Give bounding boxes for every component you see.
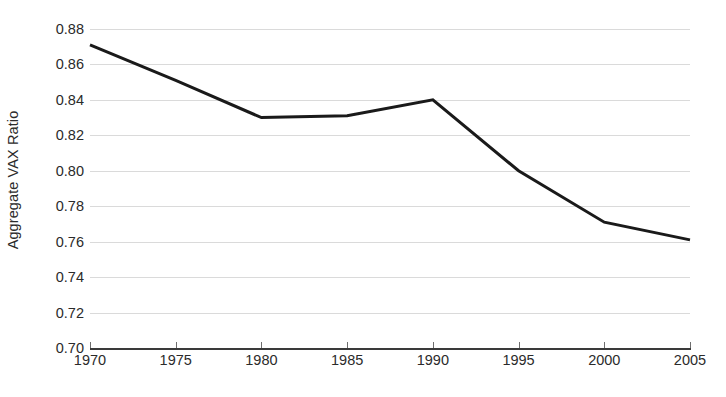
x-axis-tick-label: 2000 <box>588 352 620 368</box>
x-axis-tick-mark <box>261 342 262 348</box>
x-axis-tick-mark <box>604 342 605 348</box>
x-axis-tick-label: 1995 <box>502 352 534 368</box>
y-axis-tick-label: 0.88 <box>56 21 84 37</box>
x-axis-tick-labels: 19701975198019851990199520002005 <box>0 352 726 382</box>
x-axis-tick-mark <box>347 342 348 348</box>
x-axis-tick-mark <box>690 342 691 348</box>
y-axis-tick-label: 0.78 <box>56 198 84 214</box>
x-axis-tick-mark <box>433 342 434 348</box>
series-line-aggregate-vax-ratio <box>90 29 690 348</box>
y-axis-title: Aggregate VAX Ratio <box>0 0 26 360</box>
line-chart: Aggregate VAX Ratio 0.880.860.840.820.80… <box>0 0 726 397</box>
x-axis-tick-label: 1970 <box>74 352 106 368</box>
y-axis-tick-label: 0.84 <box>56 92 84 108</box>
y-axis-tick-labels: 0.880.860.840.820.800.780.760.740.720.70 <box>26 0 88 397</box>
y-axis-tick-label: 0.82 <box>56 127 84 143</box>
x-axis-line <box>90 348 691 350</box>
x-axis-tick-label: 1980 <box>245 352 277 368</box>
plot-area <box>90 29 690 348</box>
x-axis-tick-label: 2005 <box>674 352 706 368</box>
x-axis-tick-mark <box>176 342 177 348</box>
x-axis-tick-label: 1975 <box>160 352 192 368</box>
y-axis-tick-label: 0.80 <box>56 163 84 179</box>
y-axis-tick-label: 0.86 <box>56 56 84 72</box>
x-axis-tick-label: 1990 <box>417 352 449 368</box>
y-axis-tick-label: 0.76 <box>56 234 84 250</box>
x-axis-tick-label: 1985 <box>331 352 363 368</box>
x-axis-tick-mark <box>90 342 91 348</box>
y-axis-tick-label: 0.74 <box>56 269 84 285</box>
x-axis-tick-mark <box>519 342 520 348</box>
y-axis-title-text: Aggregate VAX Ratio <box>5 111 21 250</box>
y-axis-tick-label: 0.72 <box>56 305 84 321</box>
